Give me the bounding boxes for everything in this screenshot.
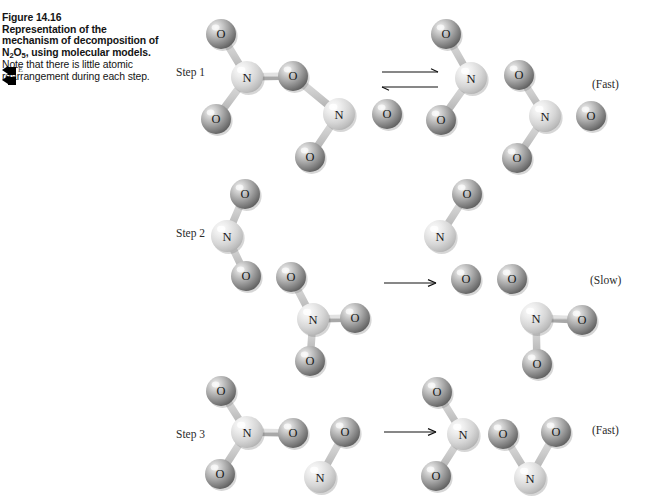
oxygen-atom: O bbox=[422, 377, 454, 409]
chemical-bond bbox=[247, 432, 293, 433]
chemical-bond bbox=[446, 34, 471, 78]
atom-label: O bbox=[462, 272, 471, 286]
atom-label: N bbox=[466, 72, 475, 86]
oxygen-atom: O bbox=[340, 303, 372, 335]
oxygen-atom: O bbox=[421, 461, 453, 493]
atom-label: O bbox=[306, 150, 315, 164]
atom-label: O bbox=[241, 187, 250, 201]
rate-label-fast: (Fast) bbox=[592, 78, 619, 90]
media-marker-row-1: E bbox=[2, 66, 42, 75]
chemical-bond bbox=[530, 432, 556, 478]
atom-label: O bbox=[216, 467, 225, 481]
reaction-arrow bbox=[384, 429, 436, 436]
step-label: Step 2 bbox=[176, 227, 205, 239]
oxygen-atom: O bbox=[278, 61, 310, 93]
atom-label: N bbox=[242, 71, 251, 85]
atom-label: N bbox=[308, 313, 317, 327]
oxygen-atom: O bbox=[502, 143, 534, 175]
chemical-bond bbox=[293, 76, 339, 114]
chemical-bond bbox=[291, 277, 313, 319]
oxygen-atom: O bbox=[278, 418, 310, 450]
atom-label: O bbox=[533, 357, 542, 371]
oxygen-atom: O bbox=[372, 99, 404, 131]
atom-label: O bbox=[433, 385, 442, 399]
marker-letter: E bbox=[18, 65, 23, 74]
atom-label: O bbox=[217, 384, 226, 398]
atom-label: O bbox=[432, 469, 441, 483]
oxygen-atom: O bbox=[426, 105, 458, 137]
chemical-bond bbox=[436, 434, 463, 476]
chemical-bond bbox=[441, 78, 471, 120]
atom-label: O bbox=[383, 107, 392, 121]
atom-label: O bbox=[351, 311, 360, 325]
oxygen-atom: O bbox=[451, 264, 483, 296]
atom-label: O bbox=[463, 187, 472, 201]
step-label: Step 1 bbox=[176, 66, 205, 78]
oxygen-atom: O bbox=[431, 19, 463, 51]
chemical-bond bbox=[503, 434, 530, 478]
oxygen-atom: O bbox=[231, 261, 263, 293]
figure-number: Figure 14.16 bbox=[2, 12, 164, 24]
chemical-bond bbox=[519, 75, 545, 116]
oxygen-atom: O bbox=[522, 349, 554, 381]
oxygen-atom: O bbox=[497, 264, 529, 296]
oxygen-atom: O bbox=[541, 417, 573, 449]
nitrogen-atom: N bbox=[520, 302, 554, 336]
nitrogen-atom: N bbox=[424, 220, 458, 254]
chemical-bond bbox=[517, 116, 545, 158]
atom-label: N bbox=[222, 230, 231, 244]
nitrogen-atom: N bbox=[323, 98, 357, 132]
reaction-arrow bbox=[384, 280, 436, 287]
oxygen-atom: O bbox=[488, 419, 520, 451]
atom-label: O bbox=[499, 427, 508, 441]
chemical-bond bbox=[437, 392, 463, 434]
chemical-bond bbox=[216, 77, 247, 119]
atom-label: O bbox=[212, 112, 221, 126]
atom-label: N bbox=[525, 472, 534, 486]
rate-label-fast: (Fast) bbox=[592, 424, 619, 436]
media-marker-row-2 bbox=[2, 76, 42, 85]
atom-label: O bbox=[587, 109, 596, 123]
chemical-bond bbox=[536, 318, 582, 320]
oxygen-atom: O bbox=[452, 179, 484, 211]
atom-label: O bbox=[552, 425, 561, 439]
chemical-bond bbox=[310, 114, 339, 157]
atom-label: O bbox=[289, 69, 298, 83]
atom-label: O bbox=[437, 113, 446, 127]
nitrogen-atom: N bbox=[231, 61, 265, 95]
figure-caption-lead-o: O bbox=[14, 47, 22, 58]
nitrogen-atom: N bbox=[211, 220, 245, 254]
chemical-bond bbox=[320, 432, 345, 477]
atom-label: O bbox=[515, 68, 524, 82]
atom-label: N bbox=[315, 471, 324, 485]
equilibrium-arrow bbox=[382, 69, 438, 90]
chemical-bond bbox=[220, 432, 247, 474]
atom-label: O bbox=[508, 272, 517, 286]
nitrogen-atom: N bbox=[514, 462, 548, 496]
nitrogen-atom: N bbox=[297, 303, 331, 337]
atom-label: O bbox=[513, 151, 522, 165]
atom-label: O bbox=[217, 27, 226, 41]
figure-caption-sub-2: 2 bbox=[9, 51, 13, 60]
atom-label: O bbox=[578, 313, 587, 327]
figure-14-16: Figure 14.16Representation of the mechan… bbox=[0, 0, 648, 503]
chemical-bond bbox=[310, 319, 313, 361]
figure-caption-sub-5: 5 bbox=[22, 51, 26, 60]
oxygen-atom: O bbox=[230, 179, 262, 211]
chemical-bond bbox=[313, 318, 355, 319]
nitrogen-atom: N bbox=[529, 100, 563, 134]
oxygen-atom: O bbox=[205, 459, 237, 491]
atom-label: N bbox=[458, 428, 467, 442]
chemical-bond bbox=[536, 318, 537, 364]
stop-square-icon bbox=[8, 77, 16, 85]
atom-label: O bbox=[242, 269, 251, 283]
chemical-bond bbox=[221, 391, 247, 432]
stop-square-icon bbox=[8, 67, 16, 75]
chemical-bond bbox=[227, 194, 245, 236]
atom-label: N bbox=[540, 110, 549, 124]
atom-label: N bbox=[334, 108, 343, 122]
atom-label: O bbox=[306, 354, 315, 368]
chemical-bond bbox=[247, 76, 293, 77]
nitrogen-atom: N bbox=[231, 416, 265, 450]
oxygen-atom: O bbox=[504, 60, 536, 92]
